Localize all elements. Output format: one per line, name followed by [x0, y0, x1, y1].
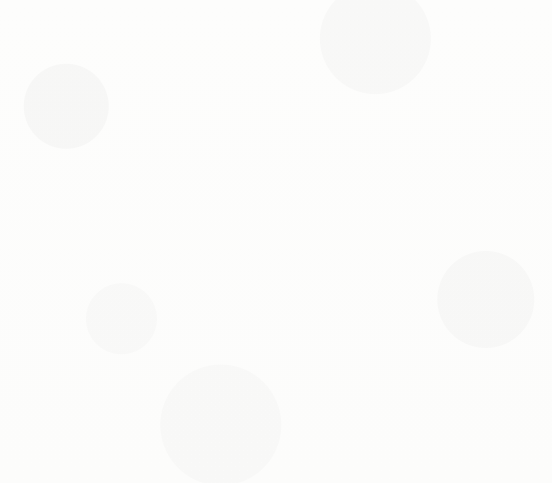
category-label: Germany — [43, 335, 90, 350]
bar-value-label: 31% — [225, 312, 248, 327]
bar — [98, 423, 283, 439]
bar — [98, 44, 114, 60]
category-label: United States — [22, 112, 90, 127]
category-label: China — [60, 156, 90, 171]
y-axis-tick — [91, 376, 99, 377]
bar — [98, 67, 141, 83]
bar-value-label: 11% — [146, 89, 168, 104]
y-axis-tick — [91, 64, 99, 65]
bar-value-label: 23% — [194, 201, 217, 216]
bar — [98, 89, 141, 105]
bar — [98, 267, 208, 283]
bar-row: France18% — [0, 131, 552, 153]
category-label: Cuba — [63, 379, 90, 394]
bar-value-label: 28% — [213, 290, 236, 305]
bar — [98, 178, 185, 194]
bar — [98, 200, 189, 216]
bar — [98, 401, 275, 417]
y-axis-tick — [91, 331, 99, 332]
bar-value-label: 33% — [233, 335, 256, 350]
bar — [98, 334, 228, 350]
bar-row: Cuba43% — [0, 376, 552, 398]
bar-value-label: 45% — [280, 402, 303, 417]
y-axis-tick — [91, 220, 99, 221]
bar-row: United States17% — [0, 108, 552, 130]
bar-value-label: 11% — [146, 67, 168, 82]
y-axis-tick — [91, 420, 99, 421]
category-label: Pakistan — [47, 201, 90, 216]
x-axis-tick-label: 90% — [441, 449, 463, 464]
bar-row: Germany33% — [0, 331, 552, 353]
category-label: France — [55, 134, 90, 149]
y-axis-tick — [91, 131, 99, 132]
bar — [98, 223, 200, 239]
y-axis-tick — [91, 41, 99, 42]
bar — [98, 156, 181, 172]
bar-row: Spain36% — [0, 354, 552, 376]
category-label: Uganda — [51, 312, 90, 327]
y-axis-tick — [91, 264, 99, 265]
category-label: Afghanistan — [28, 290, 90, 305]
bar-value-label: 17% — [170, 112, 193, 127]
category-label: Iraq — [69, 223, 90, 238]
category-label: Canada — [52, 179, 90, 194]
bar — [98, 290, 208, 306]
x-axis-tick-label: 80% — [402, 449, 424, 464]
bar-value-label: 26% — [205, 223, 228, 238]
y-axis-tick — [91, 287, 99, 288]
bar — [98, 312, 220, 328]
category-label: South Africa — [25, 402, 90, 417]
x-axis-tick-label: 50% — [284, 449, 306, 464]
bar-value-label: 28% — [213, 268, 236, 283]
horizontal-bar-chart: Saudi Arabia0%Haiti4%Japan11%India11%Uni… — [0, 0, 552, 483]
x-axis-tick-label: 30% — [205, 449, 227, 464]
bar-row: Pakistan23% — [0, 197, 552, 219]
bar-row: Australia27% — [0, 242, 552, 264]
category-label: Saudi Arabia — [24, 23, 90, 38]
category-label: Haiti — [64, 45, 90, 60]
bar-value-label: 36% — [245, 357, 268, 372]
y-axis-tick — [91, 86, 99, 87]
bar-row: Haiti4% — [0, 41, 552, 63]
bar-value-label: 18% — [174, 134, 197, 149]
bar-row: Canada22% — [0, 175, 552, 197]
bar — [98, 245, 204, 261]
bar-value-label: 21% — [186, 156, 209, 171]
y-axis-tick — [91, 19, 99, 20]
bar-row: India11% — [0, 86, 552, 108]
y-axis-tick — [91, 175, 99, 176]
category-label: Sweden — [50, 424, 90, 439]
category-label: Mexico — [51, 268, 90, 283]
bar-row: Saudi Arabia0% — [0, 19, 552, 41]
bar-value-label: 43% — [272, 379, 295, 394]
x-axis-tick-label: 60% — [323, 449, 345, 464]
category-label: Australia — [43, 246, 90, 261]
x-axis-tick-label: 70% — [363, 449, 385, 464]
bar-value-label: 0% — [103, 23, 120, 38]
bar-value-label: 4% — [119, 45, 136, 60]
y-axis-tick — [91, 309, 99, 310]
x-axis-tick-label: 10% — [126, 449, 148, 464]
bar-row: Mexico28% — [0, 264, 552, 286]
bar — [98, 111, 165, 127]
bar-row: Uganda31% — [0, 309, 552, 331]
bar-row: Japan11% — [0, 64, 552, 86]
bar-row: Iraq26% — [0, 220, 552, 242]
y-axis-tick — [91, 398, 99, 399]
y-axis-tick — [91, 153, 99, 154]
bar-row: China21% — [0, 153, 552, 175]
category-label: Japan — [61, 67, 90, 82]
x-axis-tick-label: 20% — [166, 449, 188, 464]
y-axis-tick — [91, 108, 99, 109]
y-axis-tick — [91, 354, 99, 355]
x-axis-tick-label: 40% — [244, 449, 266, 464]
y-axis-tick — [91, 242, 99, 243]
bar — [98, 134, 169, 150]
bar — [98, 357, 240, 373]
category-label: Spain — [61, 357, 90, 372]
x-axis-tick-label: 100% — [478, 449, 506, 464]
bar-row: Sweden47% — [0, 420, 552, 442]
bar-value-label: 22% — [190, 179, 213, 194]
category-label: India — [64, 89, 90, 104]
bar-row: South Africa45% — [0, 398, 552, 420]
